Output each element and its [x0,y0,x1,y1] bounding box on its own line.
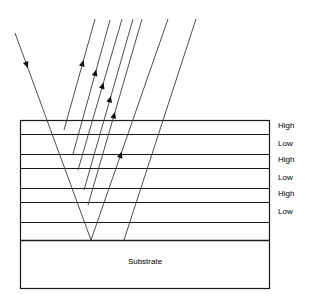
substrate-label: Substrate [115,258,175,266]
reflected-ray-1 [64,19,95,130]
layer-label-low-6: Low [278,208,293,216]
incident-ray-arrowhead [23,61,31,69]
layer-label-high-5: High [278,190,294,198]
diagram-root: HighLowHighLowHighLow Substrate [0,0,314,300]
reflected-ray-2-arrowhead [92,69,99,77]
layer-label-high-1: High [278,122,294,130]
layer-label-low-2: Low [278,140,293,148]
multilayer-coating-diagram [0,0,314,300]
layer-label-high-3: High [278,156,294,164]
reflected-ray-5-arrowhead [110,111,117,119]
reflected-ray-1-arrowhead [79,59,86,67]
reflected-ray-3-arrowhead [99,82,106,90]
reflected-ray-4-arrowhead [106,95,113,103]
layer-label-low-4: Low [278,174,293,182]
